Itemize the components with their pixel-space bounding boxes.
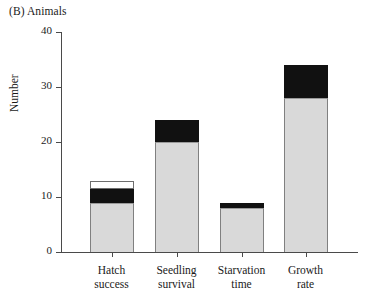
- x-tick-growth-rate: [306, 252, 307, 257]
- bar-segment-gray: [90, 203, 134, 253]
- y-tick-10: 10: [56, 197, 61, 198]
- category-label-growth-rate: Growthrate: [266, 264, 346, 291]
- bar-starvation-time: [220, 203, 264, 252]
- bar-seedling-survival: [155, 120, 199, 252]
- y-axis-line: [61, 32, 62, 253]
- category-label-line: Growth: [266, 264, 346, 278]
- bar-hatch-success: [90, 181, 134, 253]
- bar-segment-white: [90, 181, 134, 189]
- y-tick-label-40: 40: [41, 24, 52, 36]
- category-label-line: rate: [266, 278, 346, 292]
- y-tick-label-30: 30: [41, 79, 52, 91]
- figure-panel-b-animals: (B) Animals Number 010203040 Hatchsucces…: [0, 0, 368, 303]
- x-tick-starvation-time: [242, 252, 243, 257]
- bar-segment-black: [90, 189, 134, 203]
- bar-segment-gray: [284, 98, 328, 252]
- y-axis-title: Number: [8, 74, 20, 112]
- plot-area: 010203040 HatchsuccessSeedlingsurvivalSt…: [61, 32, 358, 252]
- page-title: (B) Animals: [9, 5, 67, 17]
- bar-segment-gray: [155, 142, 199, 252]
- bar-growth-rate: [284, 65, 328, 252]
- y-tick-20: 20: [56, 142, 61, 143]
- y-tick-30: 30: [56, 87, 61, 88]
- y-tick-label-20: 20: [41, 134, 52, 146]
- y-tick-label-0: 0: [47, 244, 53, 256]
- y-tick-0: 0: [56, 252, 61, 253]
- x-tick-seedling-survival: [177, 252, 178, 257]
- y-tick-40: 40: [56, 32, 61, 33]
- bar-segment-gray: [220, 208, 264, 252]
- x-tick-hatch-success: [112, 252, 113, 257]
- x-axis-line: [61, 252, 358, 253]
- bar-segment-black: [284, 65, 328, 98]
- y-tick-label-10: 10: [41, 189, 52, 201]
- bar-segment-black: [155, 120, 199, 142]
